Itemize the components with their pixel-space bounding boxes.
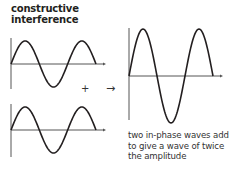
arrow-icon: →	[106, 82, 115, 95]
caption-line-2: to give a wave of twice	[128, 141, 240, 152]
caption-line-3: the amplitude	[128, 151, 240, 162]
plus-symbol: +	[81, 83, 89, 94]
resultant-wave-axes	[129, 28, 223, 120]
caption-line-1: two in-phase waves add	[128, 130, 240, 141]
caption: two in-phase waves add to give a wave of…	[128, 130, 240, 162]
wave-1-axes	[11, 38, 106, 89]
